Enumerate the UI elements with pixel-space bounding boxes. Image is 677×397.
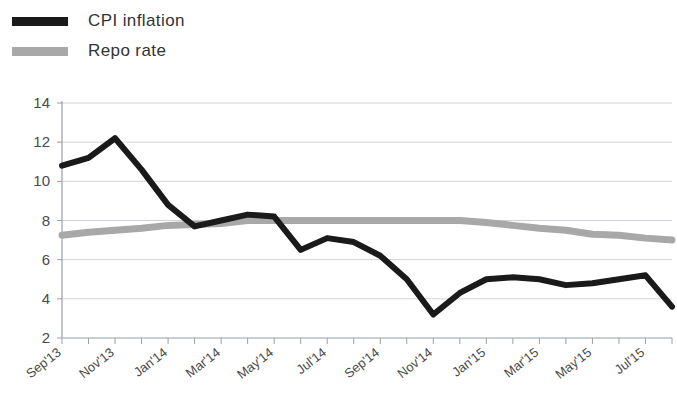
x-axis-tick-label: Jul'14 <box>293 345 329 377</box>
x-axis-tick-label: Jan'14 <box>131 345 170 380</box>
x-axis: Sep'13Nov'13Jan'14Mar'14May'14Jul'14Sep'… <box>23 338 672 382</box>
y-axis-tick-label: 8 <box>42 212 50 229</box>
grid-lines <box>62 103 672 299</box>
y-axis-tick-label: 6 <box>42 251 50 268</box>
x-axis-tick-label: Sep'14 <box>341 345 382 381</box>
y-axis-tick-label: 10 <box>33 172 50 189</box>
x-axis-tick-label: May'14 <box>234 345 276 382</box>
x-axis-tick-label: Jul'15 <box>612 345 648 377</box>
x-axis-tick-label: Mar'14 <box>183 345 223 381</box>
chart-container: CPI inflation Repo rate 2468101214 Sep'1… <box>0 0 677 397</box>
x-axis-tick-label: Nov'14 <box>394 345 435 381</box>
x-axis-tick-label: Mar'15 <box>501 345 541 381</box>
x-axis-tick-label: Jan'15 <box>449 345 488 380</box>
y-axis: 2468101214 <box>33 94 62 346</box>
line-chart-plot: 2468101214 Sep'13Nov'13Jan'14Mar'14May'1… <box>0 0 677 397</box>
series-line-repo-rate <box>62 221 672 241</box>
y-axis-tick-label: 4 <box>42 290 50 307</box>
data-series <box>62 138 672 314</box>
y-axis-tick-label: 2 <box>42 329 50 346</box>
x-axis-tick-label: May'15 <box>552 345 594 382</box>
y-axis-tick-label: 12 <box>33 133 50 150</box>
y-axis-tick-label: 14 <box>33 94 50 111</box>
x-axis-tick-label: Nov'13 <box>76 345 117 381</box>
x-axis-tick-label: Sep'13 <box>23 345 64 381</box>
